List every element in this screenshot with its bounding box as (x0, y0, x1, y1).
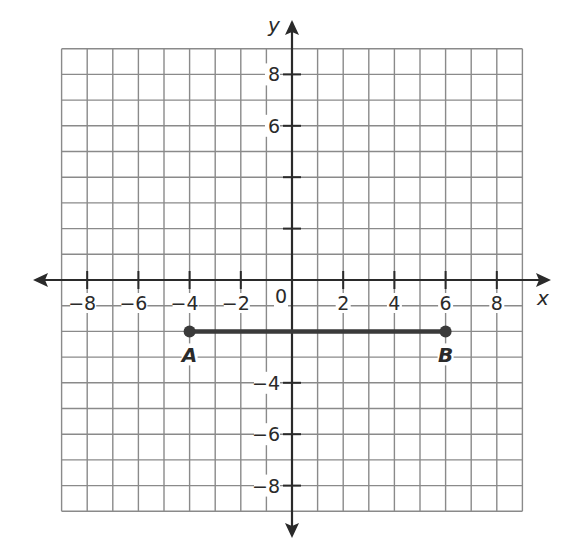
origin-label: 0 (275, 285, 287, 307)
coordinate-plane: xy −8−6−4−2246886−4−6−80 AB (0, 0, 576, 552)
point-a (184, 325, 196, 337)
x-tick-label: 2 (337, 292, 349, 314)
point-label-a: A (180, 343, 197, 367)
y-tick-label: 6 (268, 115, 280, 137)
x-tick-label: −6 (119, 292, 147, 314)
y-tick-label: −6 (252, 423, 280, 445)
x-tick-label: −8 (68, 292, 96, 314)
x-tick-label: −2 (222, 292, 250, 314)
point-label-b: B (438, 343, 453, 367)
y-tick-label: −4 (252, 372, 280, 394)
x-tick-label: 8 (491, 292, 503, 314)
x-tick-label: −4 (171, 292, 199, 314)
y-axis-label: y (267, 13, 281, 37)
y-tick-label: 8 (268, 63, 280, 85)
x-tick-label: 4 (388, 292, 400, 314)
x-tick-label: 6 (440, 292, 452, 314)
point-b (440, 325, 452, 337)
plotted-figures: AB (180, 325, 454, 367)
y-tick-label: −8 (252, 475, 280, 497)
x-axis-label: x (536, 286, 549, 310)
